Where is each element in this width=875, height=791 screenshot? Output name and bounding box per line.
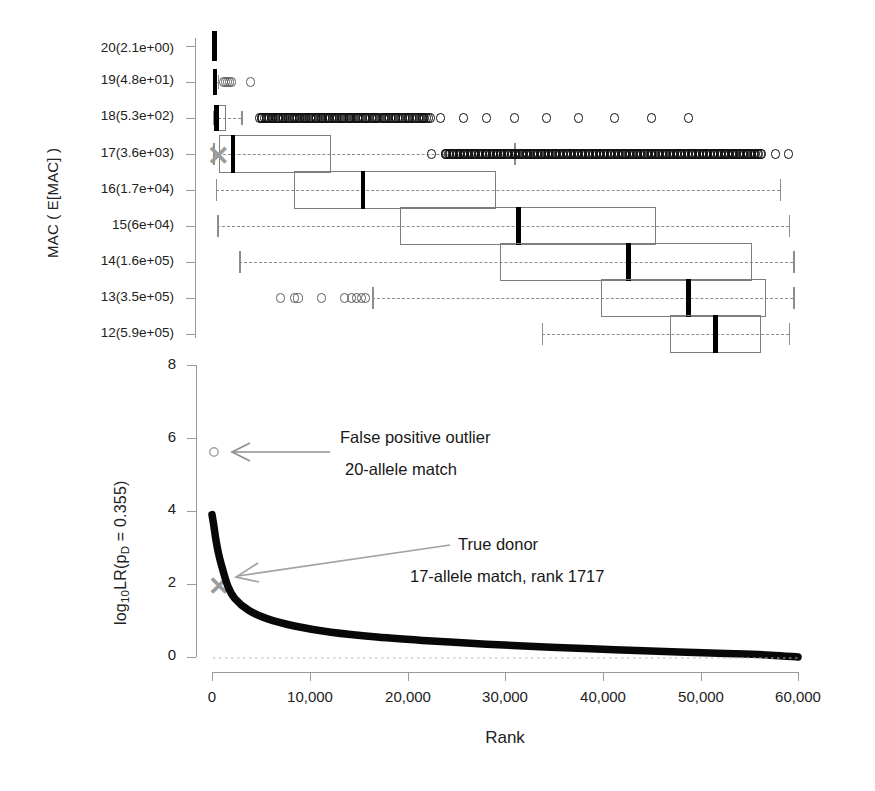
decay-x-tick (310, 672, 311, 681)
boxplot-outlier (361, 293, 370, 302)
decay-y-axis-title-base: 10 (119, 590, 131, 603)
boxplot-whisker-cap (793, 287, 795, 308)
boxplot-whisker-cap (216, 179, 218, 200)
boxplot-whisker-cap (780, 179, 782, 200)
decay-y-tick-label: 4 (140, 500, 176, 517)
boxplot-outlier (459, 113, 468, 122)
decay-y-axis-title: log10LR(pD = 0.355) (112, 480, 131, 625)
boxplot-outlier (784, 149, 793, 158)
decay-x-tick (701, 672, 702, 681)
true-donor-annotation-line1: True donor (458, 535, 538, 554)
decay-x-tick-label: 0 (182, 688, 242, 705)
boxplot-whisker-cap (789, 215, 791, 236)
boxplot-true-donor-x-marker: ✕ (207, 143, 230, 170)
boxplot-outlier (276, 293, 285, 302)
boxplot-median (713, 315, 718, 353)
boxplot-outlier (647, 113, 656, 122)
boxplot-outlier (293, 293, 302, 302)
boxplot-median (516, 207, 521, 245)
boxplot-median (686, 279, 691, 317)
boxplot-outlier (482, 113, 491, 122)
decay-y-tick (187, 511, 196, 512)
false-positive-annotation-line1: False positive outlier (340, 428, 490, 447)
false-positive-outlier-point (210, 448, 218, 456)
boxplot-whisker-cap (789, 323, 791, 344)
boxplot-series-layer (0, 0, 875, 360)
decay-x-tick-label: 40,000 (558, 688, 648, 705)
boxplot-median (361, 171, 366, 209)
decay-y-axis-title-lr: LR(p (112, 554, 129, 589)
boxplot-outlier (755, 149, 764, 158)
decay-y-tick-label: 6 (140, 428, 176, 445)
decay-y-axis-title-eq: = 0.355) (112, 480, 129, 545)
decay-y-axis-title-pd: D (119, 546, 131, 555)
boxplot-outlier (771, 149, 780, 158)
decay-x-tick-label: 10,000 (265, 688, 355, 705)
decay-x-tick-label: 60,000 (753, 688, 843, 705)
boxplot-median (212, 31, 216, 61)
decay-y-tick (187, 365, 196, 366)
boxplot-outlier (227, 77, 236, 86)
boxplot-median (213, 69, 217, 95)
boxplot-whisker-cap (793, 251, 795, 272)
decay-x-tick (408, 672, 409, 681)
boxplot-whisker-cap (239, 251, 241, 272)
boxplot-outlier (610, 113, 619, 122)
boxplot-outlier (542, 113, 551, 122)
decay-y-axis-spine (196, 365, 197, 657)
decay-x-axis-title: Rank (455, 728, 555, 748)
true-donor-arrow-head (236, 563, 259, 582)
boxplot-outlier (246, 77, 255, 86)
decay-y-tick (187, 438, 196, 439)
false-positive-annotation-line2: 20-allele match (345, 460, 457, 479)
decay-x-tick-label: 30,000 (460, 688, 550, 705)
boxplot-box (400, 207, 656, 245)
boxplot-outlier (427, 149, 436, 158)
boxplot-whisker-cap (217, 215, 219, 236)
decay-y-tick-label: 8 (140, 355, 176, 372)
decay-x-tick-label: 20,000 (363, 688, 453, 705)
boxplot-outlier (436, 113, 445, 122)
decay-y-axis-title-text: log (112, 603, 129, 625)
boxplot-outlier (426, 113, 435, 122)
boxplot-outlier (684, 113, 693, 122)
decay-y-tick (187, 657, 196, 658)
boxplot-whisker-cap (241, 111, 243, 126)
boxplot-box (219, 135, 331, 173)
boxplot-whisker-cap (372, 287, 374, 308)
decay-x-tick (505, 672, 506, 681)
boxplot-outlier (574, 113, 583, 122)
decay-y-tick-label: 2 (140, 573, 176, 590)
decay-true-donor-x-marker: ✕ (208, 573, 230, 599)
boxplot-outlier (510, 113, 519, 122)
decay-y-tick-label: 0 (140, 646, 176, 663)
boxplot-box (601, 279, 766, 317)
decay-x-tick (798, 672, 799, 681)
decay-x-tick-label: 50,000 (656, 688, 746, 705)
boxplot-median (214, 105, 218, 131)
boxplot-median (626, 243, 631, 281)
decay-x-tick (603, 672, 604, 681)
figure-root: MAC ( E[MAC] ) 20(2.1e+00) 19(4.8e+01) 1… (0, 0, 875, 791)
decay-y-tick (187, 584, 196, 585)
boxplot-whisker-cap (542, 323, 544, 344)
true-donor-annotation-line2: 17-allele match, rank 1717 (410, 567, 604, 586)
boxplot-outlier (317, 293, 326, 302)
boxplot-box (294, 171, 495, 209)
false-positive-arrow-head (232, 443, 250, 461)
decay-x-tick (212, 672, 213, 681)
boxplot-median (231, 135, 236, 173)
